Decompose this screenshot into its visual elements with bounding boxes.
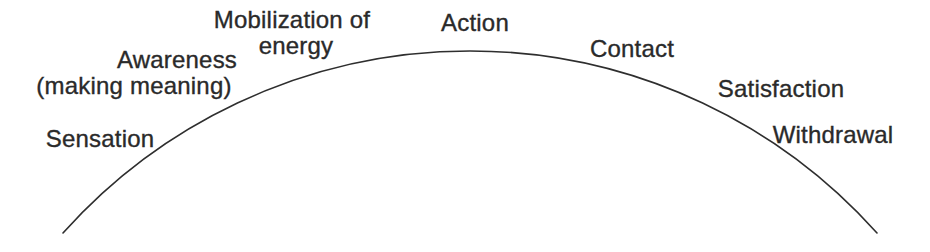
stage-sublabel-energy: energy [259,33,334,59]
cycle-of-experience-diagram: Sensation Awareness (making meaning) Mob… [0,0,930,252]
stage-label-mobilization-of-energy: Mobilization of [214,7,370,33]
stage-label-awareness: Awareness [117,47,237,73]
stage-label-contact: Contact [590,36,674,62]
stage-label-withdrawal: Withdrawal [773,122,894,148]
stage-label-action: Action [441,10,509,36]
stage-label-sensation: Sensation [46,126,155,152]
stage-sublabel-making-meaning: (making meaning) [36,73,231,99]
stage-label-satisfaction: Satisfaction [718,76,844,102]
